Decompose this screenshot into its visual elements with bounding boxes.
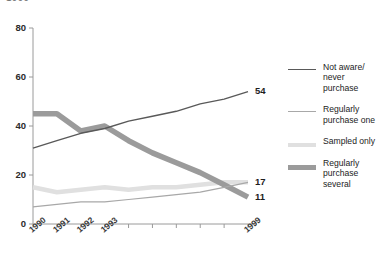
series-end-value-label: 17 <box>255 176 266 187</box>
legend-swatch-line <box>288 143 316 147</box>
x-axis-tick-label: 1999 <box>242 215 263 235</box>
legend-label: Not aware/ never purchase <box>323 62 365 93</box>
series-line <box>33 182 248 192</box>
x-axis-tick-label: 1992 <box>75 215 96 235</box>
legend-item-regularly-one[interactable]: Regularly purchase one <box>288 104 381 125</box>
series-line <box>33 182 248 207</box>
y-axis-tick-label: 40 <box>15 120 26 131</box>
legend-swatch-line <box>288 69 316 70</box>
x-axis-tick-label: 1993 <box>99 215 120 235</box>
line-chart-svg: 02040608019901991199219931999541711 <box>0 18 290 244</box>
legend-item-sampled-only[interactable]: Sampled only <box>288 136 381 147</box>
y-axis-tick-label: 0 <box>21 218 26 229</box>
x-axis-tick-label: 1991 <box>51 215 72 235</box>
y-axis-tick-label: 80 <box>15 22 26 33</box>
series-end-value-label: 11 <box>255 191 266 202</box>
plot-area: 02040608019901991199219931999541711 <box>0 18 290 244</box>
y-axis-tick-label: 20 <box>15 169 26 180</box>
legend-label: Regularly purchase several <box>323 158 359 189</box>
x-axis-tick-label: 1990 <box>27 215 48 235</box>
legend-label: Sampled only <box>323 136 375 146</box>
y-axis-tick-label: 60 <box>15 71 26 82</box>
chart-legend: Not aware/ never purchase Regularly purc… <box>288 62 381 200</box>
legend-item-not-aware[interactable]: Not aware/ never purchase <box>288 62 381 93</box>
clipped-header-text: 1999 <box>6 0 29 3</box>
legend-label: Regularly purchase one <box>323 104 375 125</box>
legend-swatch-line <box>288 111 316 112</box>
legend-item-regularly-several[interactable]: Regularly purchase several <box>288 158 381 189</box>
legend-swatch-line <box>288 165 316 170</box>
chart-root: 1999 02040608019901991199219931999541711… <box>0 0 381 269</box>
series-end-value-label: 54 <box>255 85 266 96</box>
